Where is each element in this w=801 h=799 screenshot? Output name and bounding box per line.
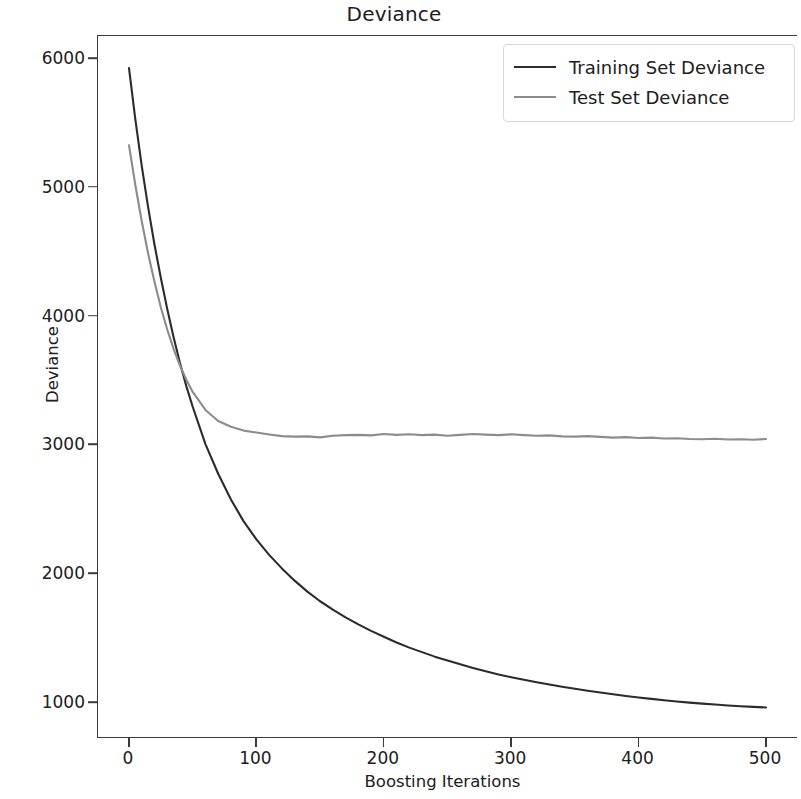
- x-tick-label: 500: [720, 748, 801, 768]
- x-tick-label: 400: [593, 748, 683, 768]
- plot-lines: [98, 36, 797, 738]
- y-tick-mark: [88, 444, 97, 446]
- legend-item-test[interactable]: Test Set Deviance: [514, 82, 784, 112]
- y-tick-mark: [88, 315, 97, 317]
- y-tick-label: 4000: [5, 306, 85, 326]
- x-tick-mark: [383, 738, 385, 747]
- plot-area: [97, 35, 797, 738]
- x-tick-mark: [128, 738, 130, 747]
- legend-item-training[interactable]: Training Set Deviance: [514, 52, 784, 82]
- y-tick-mark: [88, 186, 97, 188]
- series-line-training: [129, 68, 766, 707]
- chart-legend: Training Set Deviance Test Set Deviance: [503, 44, 795, 122]
- legend-label-training: Training Set Deviance: [569, 57, 765, 78]
- y-tick-mark: [88, 57, 97, 59]
- x-tick-mark: [638, 738, 640, 747]
- y-tick-mark: [88, 572, 97, 574]
- x-tick-label: 0: [83, 748, 173, 768]
- x-tick-mark: [765, 738, 767, 747]
- y-tick-label: 5000: [5, 177, 85, 197]
- x-tick-label: 300: [465, 748, 555, 768]
- chart-title: Deviance: [0, 2, 788, 26]
- x-tick-label: 100: [210, 748, 300, 768]
- x-axis-label: Boosting Iterations: [97, 772, 788, 791]
- x-tick-label: 200: [338, 748, 428, 768]
- y-tick-label: 6000: [5, 48, 85, 68]
- x-tick-mark: [255, 738, 257, 747]
- legend-label-test: Test Set Deviance: [569, 87, 729, 108]
- legend-swatch-training: [514, 66, 556, 68]
- y-tick-label: 3000: [5, 434, 85, 454]
- y-tick-mark: [88, 701, 97, 703]
- x-tick-mark: [510, 738, 512, 747]
- legend-swatch-test: [514, 96, 556, 98]
- series-line-test: [129, 145, 766, 439]
- y-tick-label: 2000: [5, 563, 85, 583]
- y-tick-label: 1000: [5, 692, 85, 712]
